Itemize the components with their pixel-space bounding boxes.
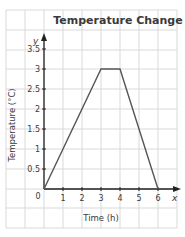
y-axis-letter: y [32,36,39,46]
x-axis-letter: x [171,193,178,203]
x-tick-label: 6 [155,194,160,203]
axes [41,33,181,192]
y-tick-label: 1 [35,145,40,154]
y-tick-label: 0.5 [27,165,40,174]
chart-svg: Temperature Change 1234560.511.522.533.5… [0,0,185,237]
y-tick-label: 2.5 [27,85,40,94]
origin-label: 0 [35,192,40,201]
x-axis-label: Time (h) [82,213,119,223]
x-tick-label: 1 [60,194,65,203]
y-axis-label: Temperature (°C) [7,88,17,162]
y-tick-label: 1.5 [27,125,40,134]
x-tick-label: 3 [98,194,103,203]
y-tick-label: 3 [35,65,40,74]
y-tick-label: 2 [35,105,40,114]
x-tick-label: 2 [79,194,84,203]
y-axis-arrow-icon [41,33,47,41]
x-tick-label: 4 [117,194,122,203]
grid-lines [6,10,177,228]
chart-container: Temperature Change 1234560.511.522.533.5… [0,0,185,237]
x-tick-label: 5 [136,194,141,203]
chart-title: Temperature Change [53,14,182,27]
y-tick-label: 3.5 [27,45,40,54]
